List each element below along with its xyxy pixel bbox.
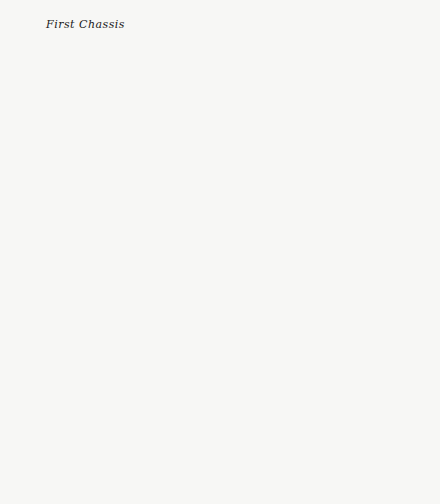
chassis-architecture-diagram: First Chassis — [0, 0, 440, 504]
first-chassis-title: First Chassis — [45, 18, 125, 31]
first-chassis: First Chassis — [45, 18, 125, 31]
